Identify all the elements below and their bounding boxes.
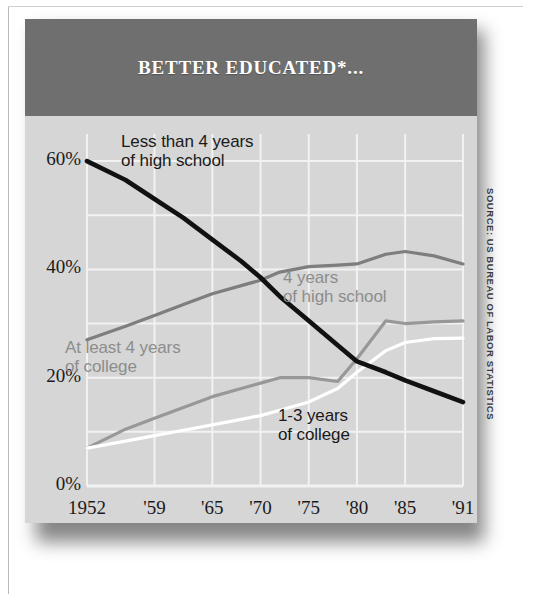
chart-card-root: BETTER EDUCATED*... 0%20%40%60%1952'59'6…: [0, 0, 540, 600]
page-title: BETTER EDUCATED*...: [138, 57, 364, 79]
series-label-line: of high school: [121, 151, 254, 170]
chart-header-band: BETTER EDUCATED*...: [25, 19, 477, 116]
series-label-line: 1-3 years: [278, 406, 350, 425]
series-label-line: of high school: [283, 287, 387, 306]
source-credit: SOURCE: US BUREAU OF LABOR STATISTICS: [485, 188, 496, 488]
x-axis-tick-label: '59: [124, 497, 184, 519]
x-axis-tick-label: '85: [375, 497, 435, 519]
x-axis-tick-label: 1952: [57, 497, 117, 519]
plot-background: [25, 116, 477, 523]
page-frame-left-rule: [8, 6, 9, 594]
series-label-0: Less than 4 yearsof high school: [121, 132, 254, 170]
plot-region: 0%20%40%60%1952'59'65'70'75'80'85'91 Les…: [25, 116, 477, 523]
chart-card: BETTER EDUCATED*... 0%20%40%60%1952'59'6…: [25, 19, 477, 523]
series-label-line: 4 years: [283, 268, 387, 287]
series-label-line: of college: [278, 425, 350, 444]
y-axis-tick-label: 0%: [56, 473, 81, 495]
series-label-1: 4 yearsof high school: [283, 268, 387, 306]
series-label-3: 1-3 yearsof college: [278, 406, 350, 444]
series-label-2: At least 4 yearsof college: [65, 338, 181, 376]
x-axis-tick-label: '91: [433, 497, 477, 519]
y-axis-tick-label: 60%: [46, 148, 81, 170]
series-label-line: At least 4 years: [65, 338, 181, 357]
line-chart-svg: [25, 116, 477, 523]
series-label-line: Less than 4 years: [121, 132, 254, 151]
y-axis-tick-label: 40%: [46, 256, 81, 278]
page-frame-top-rule: [8, 6, 523, 7]
series-label-line: of college: [65, 357, 181, 376]
